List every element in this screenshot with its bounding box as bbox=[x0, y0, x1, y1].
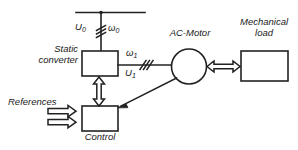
static-converter-label-line1: Static bbox=[54, 43, 78, 54]
output-voltage-label: U1 bbox=[125, 68, 136, 82]
ac-motor-label: AC-Motor bbox=[159, 28, 221, 39]
mechanical-load-label-line1: Mechanical bbox=[240, 16, 288, 27]
output-voltage-subscript: 1 bbox=[132, 72, 136, 79]
mechanical-load-block[interactable] bbox=[241, 51, 288, 81]
supply-three-phase-slashes bbox=[97, 26, 106, 38]
supply-voltage-symbol: U bbox=[75, 21, 82, 32]
supply-frequency-subscript: 0 bbox=[115, 27, 119, 34]
control-block[interactable] bbox=[82, 106, 118, 131]
motor-load-double-arrow bbox=[207, 61, 240, 72]
supply-voltage-subscript: 0 bbox=[82, 26, 86, 33]
control-label: Control bbox=[70, 132, 130, 143]
static-converter-block[interactable] bbox=[82, 51, 118, 76]
output-frequency-label: ω1 bbox=[126, 48, 137, 62]
mechanical-load-label-line2: load bbox=[255, 27, 273, 38]
supply-voltage-label: U0 bbox=[75, 22, 86, 36]
diagram-canvas: U0 ω0 Static converter ω1 U1 AC-Motor Me… bbox=[0, 0, 298, 150]
mechanical-load-label: Mechanical load bbox=[232, 17, 296, 38]
converter-control-double-arrow bbox=[94, 77, 105, 106]
output-voltage-symbol: U bbox=[125, 67, 132, 78]
static-converter-label-line2: converter bbox=[38, 54, 78, 65]
motor-feedback-line bbox=[121, 78, 177, 106]
supply-frequency-label: ω0 bbox=[108, 23, 119, 37]
references-arrow-lower bbox=[48, 117, 76, 128]
static-converter-label: Static converter bbox=[10, 44, 78, 65]
output-frequency-subscript: 1 bbox=[133, 52, 137, 59]
references-label: References bbox=[8, 97, 57, 108]
